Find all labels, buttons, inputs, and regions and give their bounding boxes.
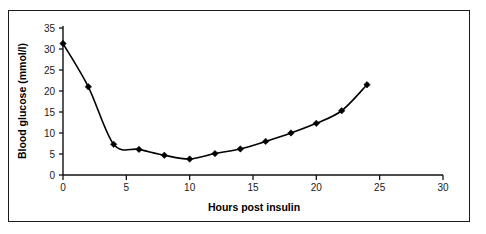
y-tick-label: 25 [44, 65, 56, 76]
data-point-marker [313, 120, 319, 126]
data-point-marker [212, 150, 218, 156]
x-tick-label: 25 [374, 182, 386, 193]
x-axis-title: Hours post insulin [208, 201, 300, 213]
x-tick-label: 20 [311, 182, 323, 193]
y-tick-label: 10 [44, 128, 56, 139]
y-tick-label: 35 [44, 23, 56, 34]
blood-glucose-markers [60, 40, 370, 162]
x-tick-label: 10 [184, 182, 196, 193]
y-tick-label: 5 [49, 149, 55, 160]
x-tick-label: 30 [437, 182, 449, 193]
data-point-marker [136, 146, 142, 152]
x-axis-ticks: 051015202530 [60, 175, 449, 193]
y-tick-label: 20 [44, 86, 56, 97]
y-tick-label: 15 [44, 107, 56, 118]
data-point-marker [288, 130, 294, 136]
line-chart: 05101520253035 051015202530 Hours post i… [0, 0, 486, 234]
data-point-marker [161, 152, 167, 158]
x-tick-label: 5 [124, 182, 130, 193]
data-point-marker [237, 146, 243, 152]
figure-root: 05101520253035 051015202530 Hours post i… [0, 0, 486, 234]
data-point-marker [262, 138, 268, 144]
y-tick-label: 0 [49, 170, 55, 181]
y-axis-ticks: 05101520253035 [44, 23, 63, 181]
data-point-marker [186, 156, 192, 162]
y-axis-title: Blood glucose (mmol/l) [16, 43, 28, 159]
blood-glucose-line [63, 44, 367, 160]
x-tick-label: 0 [60, 182, 66, 193]
y-tick-label: 30 [44, 44, 56, 55]
data-point-marker [85, 84, 91, 90]
x-tick-label: 15 [247, 182, 259, 193]
